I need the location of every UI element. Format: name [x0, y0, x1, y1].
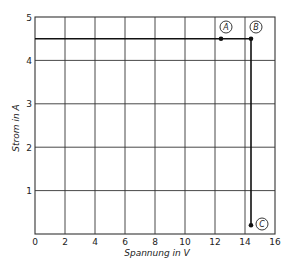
x-axis-title: Spannung in V — [124, 248, 190, 258]
point-b-label: B — [253, 23, 259, 32]
characteristic-curve — [35, 39, 251, 226]
x-axis-ticks: 0 2 4 6 8 10 12 14 16 — [32, 237, 281, 247]
y-tick: 2 — [26, 143, 32, 153]
y-tick: 3 — [26, 99, 32, 109]
y-axis-title: Strom in A — [11, 104, 21, 151]
y-axis-ticks: 5 4 3 2 1 — [26, 13, 32, 196]
x-tick: 0 — [32, 237, 38, 247]
y-tick: 4 — [26, 56, 32, 66]
x-tick: 2 — [62, 237, 68, 247]
grid — [35, 17, 275, 234]
x-tick: 6 — [122, 237, 128, 247]
x-tick: 14 — [239, 237, 251, 247]
point-c-label: C — [259, 220, 265, 229]
point-c-marker — [249, 223, 254, 228]
y-tick: 1 — [26, 186, 32, 196]
x-tick: 4 — [92, 237, 98, 247]
point-b-marker — [249, 36, 254, 41]
data-series — [35, 36, 253, 227]
x-tick: 12 — [209, 237, 220, 247]
chart-canvas: A B C 5 4 3 2 1 0 2 4 6 8 10 12 14 16 Sp… — [0, 0, 292, 266]
x-tick: 16 — [269, 237, 281, 247]
point-a-marker — [219, 36, 224, 41]
point-a-label: A — [222, 23, 228, 32]
x-tick: 10 — [179, 237, 191, 247]
x-tick: 8 — [152, 237, 158, 247]
y-tick: 5 — [26, 13, 32, 23]
point-labels — [220, 21, 268, 230]
